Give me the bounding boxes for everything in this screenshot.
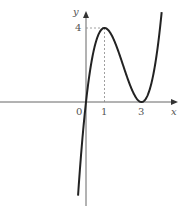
origin-label: 0: [76, 106, 82, 117]
x-axis-arrow-icon: [171, 99, 178, 105]
y-tick-label-4: 4: [75, 22, 81, 33]
x-tick-label-1: 1: [101, 106, 107, 117]
x-tick-label-3: 3: [138, 106, 144, 117]
function-graph: y 4 0 1 3 x: [0, 0, 188, 212]
x-axis-label: x: [171, 106, 177, 117]
function-curve: [78, 12, 162, 195]
y-axis-arrow-icon: [83, 11, 89, 18]
y-axis-label: y: [72, 6, 79, 17]
